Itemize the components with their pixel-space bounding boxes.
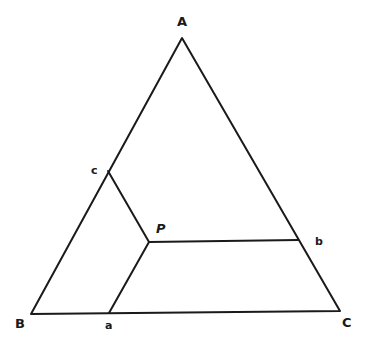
vertex-label-c: C xyxy=(342,315,352,330)
triangle-abc xyxy=(31,38,340,314)
segment-p-c xyxy=(108,171,149,242)
triangle-diagram: A B C P c b a xyxy=(0,0,368,342)
segment-p-b xyxy=(149,240,298,242)
vertex-label-b: B xyxy=(15,316,25,331)
point-label-c: c xyxy=(91,164,98,177)
point-label-p: P xyxy=(156,221,166,236)
segment-p-a xyxy=(109,242,149,313)
vertex-label-a: A xyxy=(177,14,187,29)
point-label-a: a xyxy=(105,319,112,332)
point-label-b: b xyxy=(315,235,323,248)
